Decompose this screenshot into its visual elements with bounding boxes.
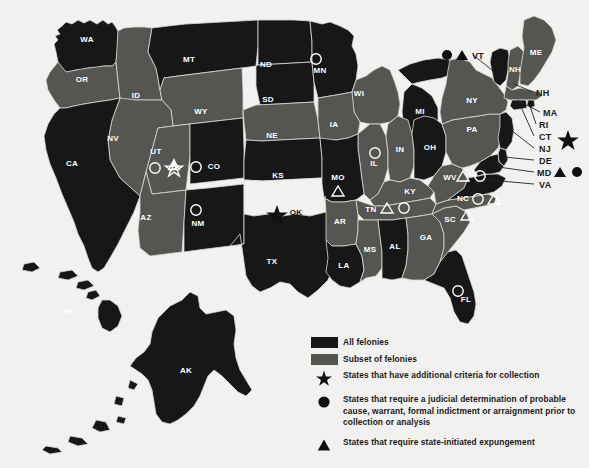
leader-DE <box>504 157 534 160</box>
state-label-AL: AL <box>389 242 400 251</box>
state-label-MO: MO <box>331 173 345 182</box>
state-label-IL: IL <box>370 159 378 168</box>
state-label-OR: OR <box>76 75 89 84</box>
swatch-subset-of-felonies-icon <box>311 354 338 365</box>
callout-label-NH: NH <box>536 88 550 98</box>
callout-label-DE: DE <box>539 156 552 166</box>
state-label-SC: SC <box>444 215 456 224</box>
state-label-WV: WV <box>443 173 457 182</box>
callout-label-MD: MD <box>537 168 552 178</box>
legend-row-subset-of-felonies: Subset of felonies <box>305 353 587 366</box>
state-label-AK: AK <box>180 366 192 375</box>
callout-marker-triangle-VT <box>456 50 468 60</box>
state-NE[interactable] <box>243 102 320 141</box>
state-CO[interactable] <box>190 118 244 184</box>
state-ND[interactable] <box>258 20 312 65</box>
legend-key-star <box>305 369 343 386</box>
state-label-TN: TN <box>365 205 376 214</box>
circle-icon <box>316 394 332 410</box>
state-TX[interactable] <box>230 212 336 298</box>
state-label-LA: LA <box>338 261 349 270</box>
state-label-SD: SD <box>262 95 274 104</box>
state-OK[interactable] <box>244 178 326 216</box>
state-label-ND: ND <box>260 60 272 69</box>
legend-key-circle <box>305 393 343 410</box>
legend-key-all-felonies <box>305 336 343 348</box>
callout-label-MA: MA <box>543 108 558 118</box>
state-CT[interactable] <box>510 100 527 110</box>
callout-marker-circle-VT <box>442 50 452 60</box>
callout-label-NJ: NJ <box>539 144 551 154</box>
state-label-NH: NH <box>509 65 521 74</box>
state-label-KY: KY <box>404 187 416 196</box>
state-label-CA: CA <box>66 159 78 168</box>
state-label-GA: GA <box>420 233 433 242</box>
state-label-KS: KS <box>272 171 284 180</box>
state-label-PA: PA <box>466 125 477 134</box>
map-page: WA OR ID MT WY ND SD NE MN WI IA CA NV U… <box>0 0 589 468</box>
state-label-OK: OK <box>290 208 303 217</box>
map-legend: All felonies Subset of felonies States t… <box>305 336 587 460</box>
state-label-NY: NY <box>466 96 478 105</box>
state-label-CO: CO <box>208 162 221 171</box>
state-label-OH: OH <box>424 143 437 152</box>
state-label-WY: WY <box>194 107 208 116</box>
state-WY[interactable] <box>160 68 243 126</box>
state-label-AZ: AZ <box>140 213 151 222</box>
callout-label-VT: VT <box>472 51 484 61</box>
callout-label-VA: VA <box>539 180 552 190</box>
state-MN[interactable] <box>310 21 358 98</box>
state-label-UT: UT <box>150 147 161 156</box>
leader-MD <box>498 167 534 172</box>
state-label-NC: NC <box>457 194 469 203</box>
state-label-NV: NV <box>107 134 119 143</box>
state-label-AR: AR <box>334 217 346 226</box>
state-label-HI: HI <box>63 307 72 316</box>
callout-label-RI: RI <box>539 120 549 130</box>
state-label-FL: FL <box>461 295 471 304</box>
legend-row-circle: States that require a judicial determina… <box>305 393 587 429</box>
state-label-MN: MN <box>313 66 326 75</box>
state-WA[interactable] <box>54 20 118 72</box>
legend-label-star: States that have additional criteria for… <box>343 369 539 382</box>
state-label-MS: MS <box>364 245 377 254</box>
state-label-IN: IN <box>396 145 405 154</box>
callout-marker-triangle-MD <box>554 167 566 177</box>
legend-label-subset-of-felonies: Subset of felonies <box>343 353 417 366</box>
legend-key-subset-of-felonies <box>305 353 343 365</box>
state-label-TX: TX <box>267 257 278 266</box>
legend-label-all-felonies: All felonies <box>343 336 389 349</box>
callout-marker-star-CT <box>557 130 579 150</box>
state-label-NE: NE <box>266 131 278 140</box>
state-label-NM: NM <box>191 219 204 228</box>
legend-row-star: States that have additional criteria for… <box>305 369 587 386</box>
state-label-ME: ME <box>530 48 543 57</box>
state-HI[interactable] <box>22 262 122 332</box>
legend-label-circle: States that require a judicial determina… <box>343 393 587 429</box>
state-label-WA: WA <box>80 35 94 44</box>
legend-key-triangle <box>305 436 343 453</box>
legend-row-triangle: States that require state-initiated expu… <box>305 436 587 453</box>
state-label-WI: WI <box>354 89 364 98</box>
triangle-icon <box>316 437 332 453</box>
state-label-IA: IA <box>330 120 339 129</box>
star-icon <box>316 370 332 386</box>
leader-NJ <box>511 130 534 148</box>
callout-marker-circle-MD <box>572 167 582 177</box>
callout-label-CT: CT <box>539 132 552 142</box>
state-label-MI: MI <box>415 107 425 116</box>
state-label-MT: MT <box>183 55 195 64</box>
legend-row-all-felonies: All felonies <box>305 336 587 349</box>
state-AK[interactable] <box>42 292 252 454</box>
swatch-all-felonies-icon <box>311 337 338 348</box>
legend-label-triangle: States that require state-initiated expu… <box>343 436 535 449</box>
state-label-ID: ID <box>132 91 141 100</box>
